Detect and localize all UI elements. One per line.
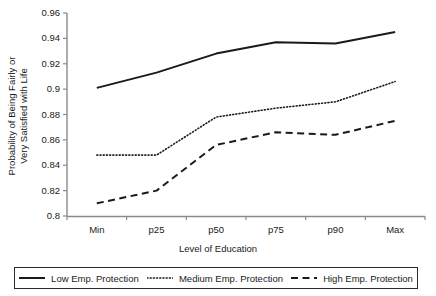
legend-label: Medium Emp. Protection <box>179 273 283 284</box>
legend-swatch-dotted <box>147 273 173 283</box>
x-axis-tick-label: p50 <box>196 224 236 235</box>
data-series-group <box>97 32 395 203</box>
legend-label: Low Emp. Protection <box>51 273 139 284</box>
legend-label: High Emp. Protection <box>323 273 413 284</box>
legend-item: High Emp. Protection <box>291 273 413 284</box>
legend-item: Medium Emp. Protection <box>147 273 283 284</box>
x-axis-tick-label: p90 <box>316 224 356 235</box>
x-axis-title: Level of Education <box>0 243 436 254</box>
x-axis-tick-label: Min <box>77 224 117 235</box>
series-line-dashed <box>97 121 395 203</box>
x-axis-tick-label: Max <box>375 224 415 235</box>
legend-item: Low Emp. Protection <box>19 273 139 284</box>
x-axis-tick-label: p25 <box>137 224 177 235</box>
series-line-solid <box>97 32 395 88</box>
legend-swatch-dashed <box>291 273 317 283</box>
x-axis-tick-label: p75 <box>256 224 296 235</box>
chart-legend: Low Emp. ProtectionMedium Emp. Protectio… <box>14 267 418 289</box>
legend-swatch-solid <box>19 273 45 283</box>
chart-figure: Probability of Being Fairly or Very Sati… <box>0 0 436 296</box>
axes-group <box>63 13 425 220</box>
series-line-dotted <box>97 82 395 156</box>
